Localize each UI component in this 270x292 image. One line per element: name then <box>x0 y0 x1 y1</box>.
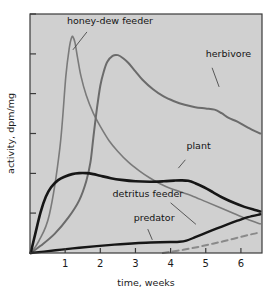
x-tick-label: 6 <box>238 258 244 269</box>
series-label-predator: predator <box>134 212 175 223</box>
chart-canvas: 123456time, weeksactivity, dpm/mghoney-d… <box>0 0 270 292</box>
x-tick-label: 2 <box>97 258 103 269</box>
x-tick-label: 1 <box>62 258 68 269</box>
chart-figure: 123456time, weeksactivity, dpm/mghoney-d… <box>0 0 270 292</box>
x-tick-label: 4 <box>167 258 173 269</box>
series-label-herbivore: herbivore <box>206 48 252 59</box>
x-tick-label: 3 <box>132 258 138 269</box>
series-label-plant: plant <box>186 140 211 151</box>
series-label-honey-dew-feeder: honey-dew feeder <box>67 15 153 26</box>
x-axis-title: time, weeks <box>117 277 174 288</box>
y-axis-title: activity, dpm/mg <box>5 93 16 174</box>
series-label-detritus-feeder: detritus feeder <box>113 188 184 199</box>
x-tick-label: 5 <box>203 258 209 269</box>
